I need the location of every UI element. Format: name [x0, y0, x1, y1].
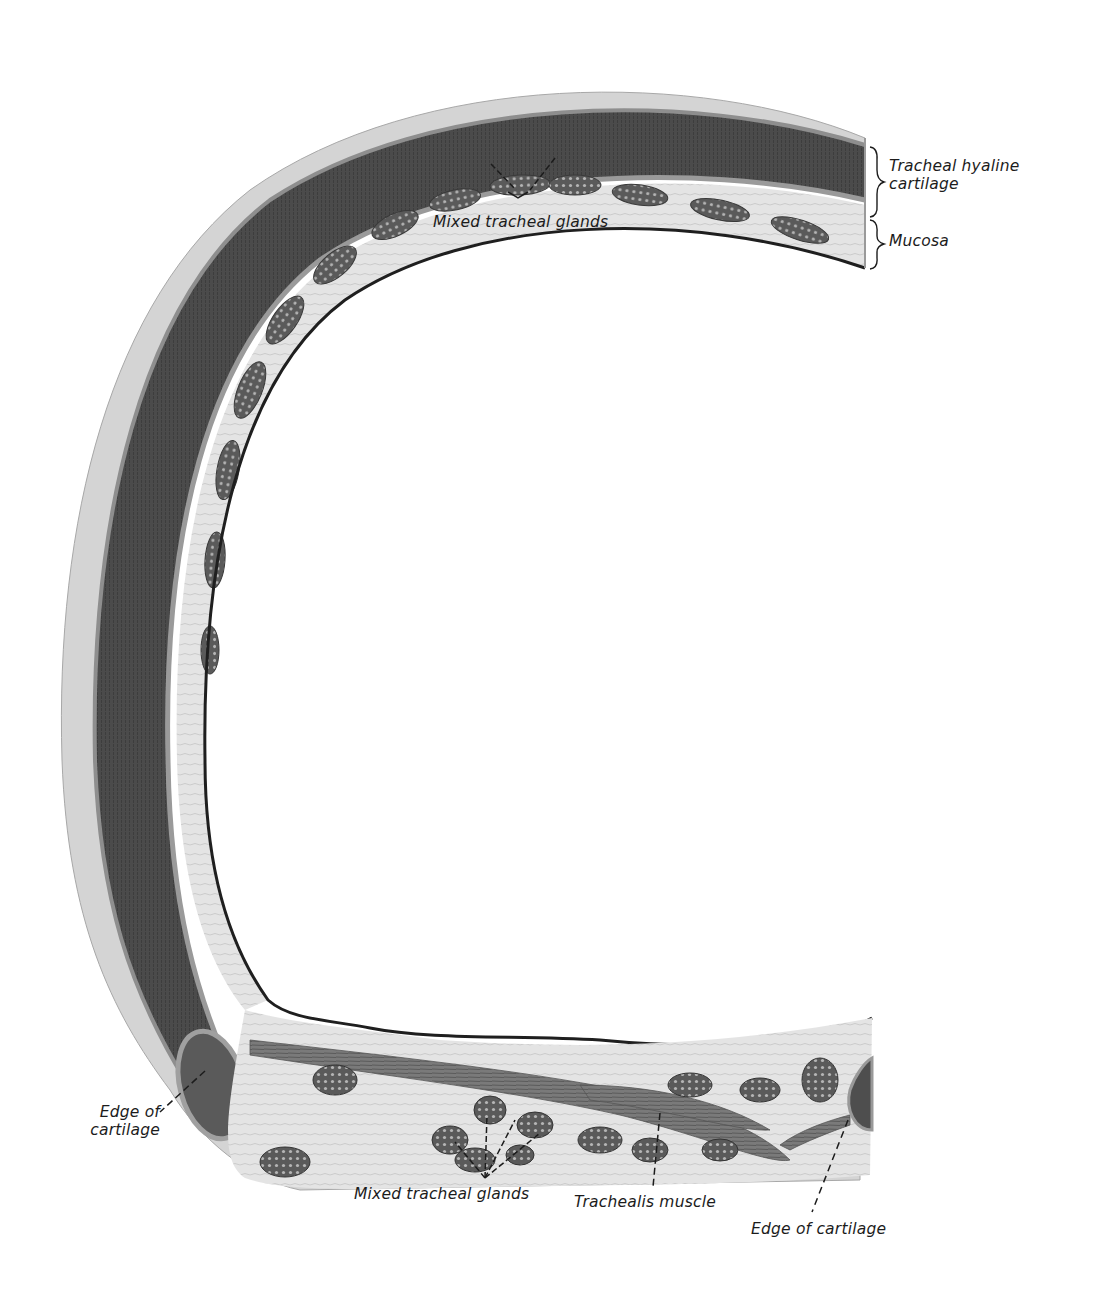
label-mixed-tracheal-glands-top: Mixed tracheal glands: [433, 213, 608, 231]
label-edge-of-cartilage-right: Edge of cartilage: [751, 1220, 886, 1238]
label-tracheal-hyaline-cartilage-line2: cartilage: [889, 175, 1019, 193]
label-edge-of-cartilage-left-line2: cartilage: [82, 1121, 160, 1139]
label-tracheal-hyaline-cartilage: Tracheal hyaline cartilage: [889, 157, 1019, 193]
label-mucosa: Mucosa: [889, 232, 949, 250]
brace-cartilage: [870, 147, 884, 217]
epithelium-surface: [205, 229, 872, 1045]
label-mixed-tracheal-glands-bottom: Mixed tracheal glands: [354, 1185, 529, 1203]
label-trachealis-muscle: Trachealis muscle: [574, 1193, 716, 1211]
cartilage-inner-rim: [168, 178, 865, 1090]
brace-mucosa: [870, 220, 884, 269]
label-tracheal-hyaline-cartilage-line1: Tracheal hyaline: [889, 157, 1019, 175]
label-edge-of-cartilage-left-line1: Edge of: [82, 1103, 160, 1121]
label-edge-of-cartilage-left: Edge of cartilage: [82, 1103, 160, 1139]
trachea-cross-section-figure: [0, 0, 1093, 1316]
